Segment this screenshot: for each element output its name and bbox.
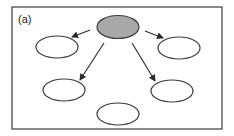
node-root (97, 16, 139, 39)
node-top-left (36, 36, 78, 58)
node-mid-right (151, 80, 193, 102)
panel-label: (a) (18, 13, 31, 25)
node-mid-left (43, 79, 85, 101)
diagram-canvas: (a) (0, 0, 234, 136)
node-bottom (97, 103, 139, 125)
node-top-right (158, 37, 200, 59)
